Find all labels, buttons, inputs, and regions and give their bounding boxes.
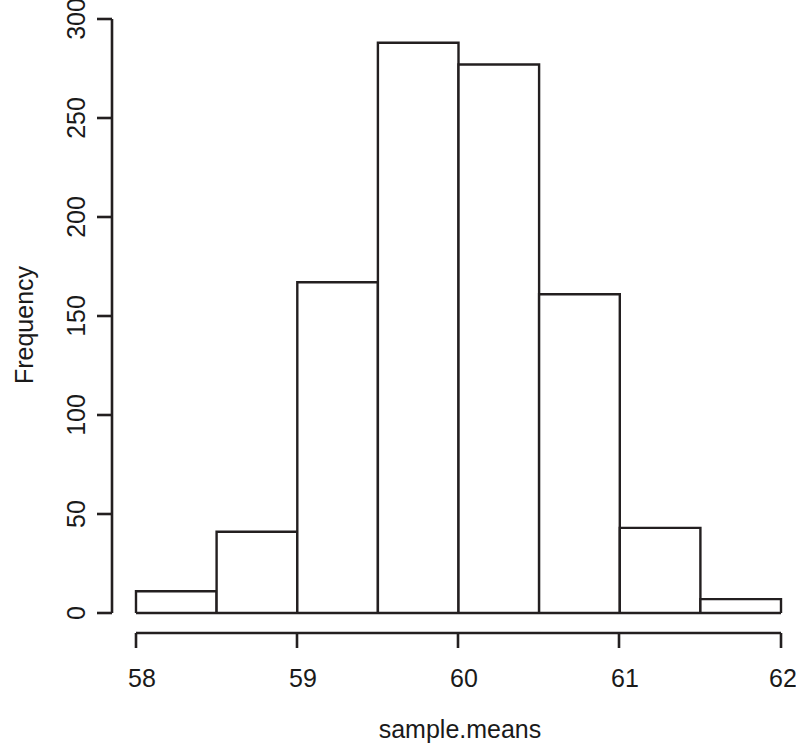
histogram-bar (217, 532, 298, 613)
y-tick-label-250: 250 (62, 97, 90, 139)
y-tick-label-150: 150 (62, 295, 90, 337)
histogram-bar (700, 599, 781, 613)
histogram-plot: 0 50 100 150 200 250 300 Frequency (0, 0, 796, 750)
y-tick-label-50: 50 (62, 500, 90, 528)
y-tick-label-200: 200 (62, 196, 90, 238)
x-axis-title: sample.means (379, 715, 542, 743)
histogram-bar (136, 591, 217, 613)
histogram-bar (459, 65, 540, 614)
chart-canvas: 0 50 100 150 200 250 300 Frequency (0, 0, 796, 750)
x-tick-label-61: 61 (611, 664, 639, 692)
histogram-bar (378, 43, 459, 613)
x-tick-label-59: 59 (289, 664, 317, 692)
histogram-bar (620, 528, 701, 613)
x-tick-label-58: 58 (128, 664, 156, 692)
histogram-bar (297, 282, 378, 613)
y-tick-label-100: 100 (62, 394, 90, 436)
y-tick-label-300: 300 (62, 0, 90, 40)
x-tick-label-60: 60 (450, 664, 478, 692)
y-axis-title: Frequency (10, 265, 38, 384)
x-tick-label-62: 62 (769, 664, 796, 692)
histogram-bar (539, 294, 620, 613)
y-tick-label-0: 0 (62, 606, 90, 620)
